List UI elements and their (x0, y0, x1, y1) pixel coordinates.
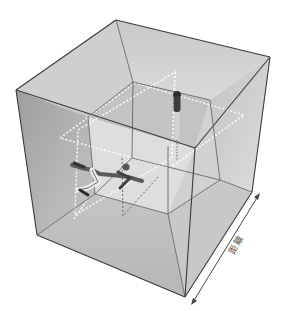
outer-cube (16, 20, 270, 297)
nested-cube-diagram (0, 0, 285, 311)
arrowhead-top-icon (254, 193, 260, 200)
arrowhead-bottom-icon (191, 298, 197, 305)
